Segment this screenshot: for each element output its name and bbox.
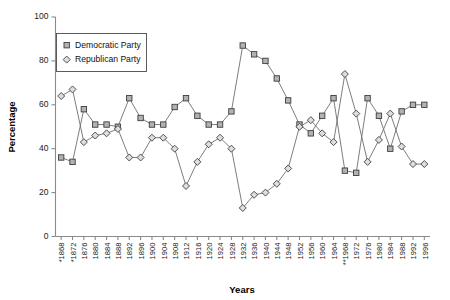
data-point-marker [285,165,292,172]
y-tick-label: 0 [44,231,49,241]
data-point-marker [364,158,371,165]
data-point-marker [194,158,201,165]
x-tick-label: 1988 [398,243,407,260]
series-republican [58,71,428,212]
data-point-marker [195,113,200,118]
data-point-marker [206,122,211,127]
data-point-marker [410,102,415,107]
x-tick-label: 1908 [171,243,180,260]
data-point-marker [388,146,393,151]
x-tick-label: 1972 [352,243,361,260]
election-percentage-chart: 020406080100 *1868*187218761880188418881… [0,0,450,300]
y-tick-label: 20 [39,187,49,197]
data-point-marker [183,96,188,101]
x-tick-label: 1944 [273,243,282,260]
x-tick-label: 1896 [137,243,146,260]
data-point-marker [104,122,109,127]
y-tick-label: 40 [39,143,49,153]
x-tick-label: 1928 [228,243,237,260]
data-point-marker [422,102,427,107]
x-tick-label: **1968 [341,243,350,266]
y-axis-ticks: 020406080100 [34,11,55,241]
data-point-marker [126,154,133,161]
data-point-marker [240,43,245,48]
chart-canvas: 020406080100 *1868*187218761880188418881… [0,0,450,300]
data-point-marker [229,109,234,114]
data-point-marker [217,122,222,127]
data-point-marker [421,161,428,168]
data-point-marker [69,86,76,93]
data-point-marker [138,115,143,120]
data-point-marker [387,110,394,117]
data-point-marker [148,134,155,141]
x-tick-label: 1936 [250,243,259,260]
x-tick-label: 1912 [182,243,191,260]
x-tick-label: 1976 [364,243,373,260]
data-point-marker [137,154,144,161]
x-tick-label: 1880 [91,243,100,260]
data-point-marker [319,113,324,118]
x-tick-label: 1920 [205,243,214,260]
y-axis-title: Percentage [6,101,17,152]
legend-label-democratic: Democratic Party [75,40,142,50]
x-tick-label: 1980 [375,243,384,260]
data-point-marker [354,170,359,175]
data-point-marker [365,96,370,101]
y-tick-label: 80 [39,55,49,65]
legend-marker-democratic-icon [64,43,69,48]
chart-legend: Democratic Party Republican Party [57,34,147,72]
data-point-marker [172,104,177,109]
data-point-marker [263,58,268,63]
x-tick-label: 1888 [114,243,123,260]
y-tick-label: 60 [39,99,49,109]
data-point-marker [161,122,166,127]
data-point-marker [285,98,290,103]
data-point-marker [342,168,347,173]
x-tick-label: 1984 [386,243,395,260]
data-point-marker [127,96,132,101]
data-point-marker [399,109,404,114]
x-axis-title: Years [229,284,254,295]
x-tick-label: 1924 [216,243,225,260]
x-tick-label: 1932 [239,243,248,260]
data-point-marker [205,141,212,148]
x-tick-label: 1948 [284,243,293,260]
data-point-marker [353,110,360,117]
x-tick-label: *1868 [57,243,66,263]
data-point-marker [274,76,279,81]
data-point-marker [93,122,98,127]
data-point-marker [251,52,256,57]
data-point-marker [58,93,65,100]
x-tick-label: 1956 [307,243,316,260]
y-tick-label: 100 [34,11,48,21]
x-tick-label: 1904 [160,243,169,260]
x-axis-ticks: *1868*1872187618801884188818921896190019… [57,237,429,266]
x-tick-label: 1884 [103,243,112,260]
data-point-marker [308,131,313,136]
data-point-marker [103,130,110,137]
x-tick-label: 1964 [330,243,339,260]
x-tick-label: 1952 [296,243,305,260]
x-tick-label: 1940 [262,243,271,260]
data-point-marker [58,155,63,160]
data-point-marker [80,139,87,146]
x-tick-label: 1892 [125,243,134,260]
x-tick-label: 1916 [194,243,203,260]
data-point-marker [409,161,416,168]
data-point-marker [341,71,348,78]
x-tick-label: 1900 [148,243,157,260]
legend-label-republican: Republican Party [75,54,141,64]
x-tick-label: *1872 [69,243,78,263]
x-tick-label: 1992 [409,243,418,260]
data-point-marker [70,159,75,164]
x-tick-label: 1876 [80,243,89,260]
data-point-marker [375,136,382,143]
x-tick-label: 1996 [421,243,430,260]
x-tick-label: 1960 [318,243,327,260]
data-point-marker [398,143,405,150]
data-point-marker [183,183,190,190]
data-point-marker [149,122,154,127]
data-point-marker [376,113,381,118]
data-point-marker [331,96,336,101]
data-point-marker [81,106,86,111]
